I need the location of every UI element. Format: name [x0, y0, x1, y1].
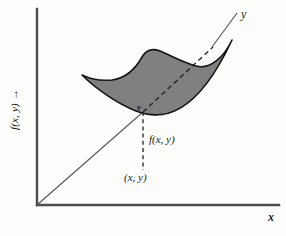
y-point-label: y: [137, 103, 141, 112]
math-figure: f(x, y) → x y y f(x, y) (x, y): [0, 0, 286, 236]
diagonal-line-upper: [212, 13, 237, 47]
y-axis-label: f(x, y) →: [9, 62, 20, 158]
point-label: (x, y): [124, 172, 147, 183]
f-value-label: f(x, y): [149, 134, 175, 145]
y-line-label: y: [241, 8, 246, 20]
figure-canvas: [0, 0, 286, 236]
saddle-surface: [82, 40, 232, 115]
diagonal-line-lower: [37, 112, 143, 205]
x-axis-label: x: [268, 211, 274, 223]
